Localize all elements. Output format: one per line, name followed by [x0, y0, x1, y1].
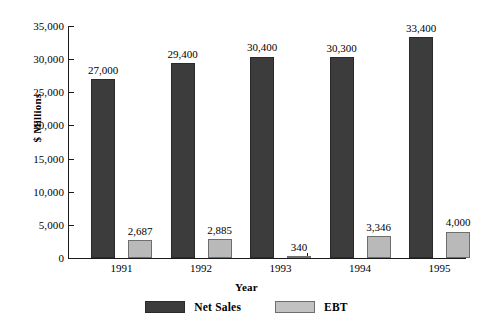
- bar-value-label: 33,400: [397, 23, 445, 34]
- legend-swatch-net-sales: [145, 301, 185, 313]
- bar: [91, 79, 115, 258]
- y-axis-tick: [69, 258, 74, 259]
- y-axis-tick-label: 15,000: [12, 154, 64, 165]
- y-axis-tick-label: 20,000: [12, 120, 64, 131]
- bar-value-label: 27,000: [79, 65, 127, 76]
- x-axis-category-label: 1994: [330, 262, 390, 274]
- bar: [409, 37, 433, 258]
- y-axis-tick-label: 35,000: [12, 21, 64, 32]
- plot-area: 27,0002,68729,4002,88530,40034030,3003,3…: [68, 26, 465, 258]
- legend-label-net-sales: Net Sales: [194, 301, 241, 313]
- y-axis-tick-label: 0: [12, 253, 64, 264]
- x-axis-category-label: 1991: [92, 262, 152, 274]
- bar: [171, 63, 195, 258]
- bar-value-label: 2,687: [116, 226, 164, 237]
- bar: [128, 240, 152, 258]
- y-axis-tick-label: 25,000: [12, 87, 64, 98]
- y-axis-tick-label: 5,000: [12, 220, 64, 231]
- bar-chart: $ Millions 05,00010,00015,00020,00025,00…: [0, 0, 493, 329]
- legend-label-ebt: EBT: [324, 301, 348, 313]
- bar: [330, 57, 354, 258]
- legend-item-ebt: EBT: [275, 301, 348, 313]
- bar: [287, 256, 311, 258]
- y-axis-tick-label: 30,000: [12, 54, 64, 65]
- x-axis-category-label: 1995: [410, 262, 470, 274]
- bar-value-label: 30,300: [318, 43, 366, 54]
- bar-value-label: 2,885: [196, 225, 244, 236]
- chart-legend: Net Sales EBT: [0, 301, 493, 313]
- x-axis-line: [68, 258, 466, 259]
- bar: [367, 236, 391, 258]
- x-axis-title: Year: [0, 281, 493, 293]
- legend-swatch-ebt: [275, 301, 315, 313]
- bar-value-label: 4,000: [434, 217, 482, 228]
- x-axis-category-label: 1993: [251, 262, 311, 274]
- bar: [446, 232, 470, 259]
- bar-value-label: 340: [275, 242, 323, 253]
- bar: [250, 57, 274, 259]
- bar-value-label: 3,346: [355, 222, 403, 233]
- bar: [208, 239, 232, 258]
- y-axis-tick-label: 10,000: [12, 187, 64, 198]
- bar-value-label: 30,400: [238, 42, 286, 53]
- x-axis-category-label: 1992: [171, 262, 231, 274]
- legend-item-net-sales: Net Sales: [145, 301, 241, 313]
- bar-value-label: 29,400: [159, 49, 207, 60]
